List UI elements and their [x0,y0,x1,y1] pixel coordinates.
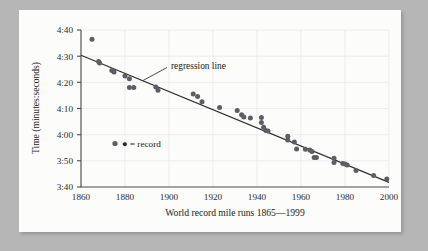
legend-marker-icon [112,141,117,146]
data-point [217,105,222,110]
data-point [97,61,102,66]
data-point [371,173,376,178]
data-point [384,176,389,181]
legend-label: ● = record [122,139,161,149]
data-point [292,140,297,145]
y-tick-label: 4:40 [57,25,74,35]
data-point [354,168,359,173]
x-tick-label: 1960 [292,192,311,202]
y-tick-label: 3:40 [57,182,74,192]
data-point [248,115,253,120]
data-point [259,120,264,125]
data-point [127,85,132,90]
y-tick-label: 3:50 [57,156,74,166]
data-point [123,74,128,79]
x-tick-label: 2000 [380,192,399,202]
data-point [112,69,117,74]
y-tick-label: 4:10 [57,104,74,114]
data-points [90,37,390,182]
data-point [195,94,200,99]
y-tick-label: 4:30 [57,52,74,62]
data-point [303,147,308,152]
data-point [345,163,350,168]
data-point [259,115,264,120]
data-point [314,155,319,160]
x-tick-label: 1980 [336,192,355,202]
data-point [285,137,290,142]
x-axis-tick-labels: 1860 1880 1900 1920 1940 1960 1980 2000 [72,192,399,202]
y-axis-title: Time (minutes:seconds) [30,62,42,154]
x-tick-label: 1940 [248,192,267,202]
data-point [156,88,161,93]
x-tick-label: 1900 [160,192,179,202]
figure-card: 4:40 4:30 4:20 4:10 4:00 3:50 3:40 1860 … [19,10,401,232]
mile-run-scatter-chart: 4:40 4:30 4:20 4:10 4:00 3:50 3:40 1860 … [19,10,401,232]
data-point [266,129,271,134]
data-point [200,99,205,104]
data-point [332,160,337,165]
regression-leader-line [143,68,167,81]
x-tick-label: 1920 [204,192,223,202]
data-point [127,76,132,81]
data-point [241,114,246,119]
data-point [191,91,196,96]
regression-line-annotation: regression line [171,61,226,71]
y-tick-label: 4:20 [57,78,74,88]
data-point [235,108,240,113]
data-point [90,37,95,42]
x-tick-label: 1860 [72,192,91,202]
data-point [294,147,299,152]
y-axis-tick-labels: 4:40 4:30 4:20 4:10 4:00 3:50 3:40 [57,25,74,192]
y-tick-label: 4:00 [57,130,74,140]
x-tick-label: 1880 [116,192,135,202]
data-point [310,149,315,154]
data-point [131,85,136,90]
x-axis-title: World record mile runs 1865—1999 [165,207,305,218]
legend: ● = record [112,139,161,149]
